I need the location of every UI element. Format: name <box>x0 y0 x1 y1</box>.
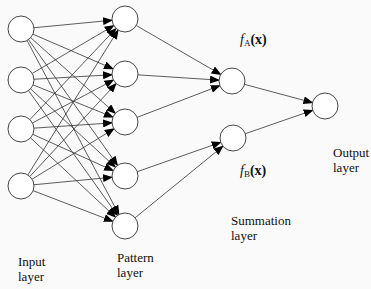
summation-b-function-label: fB(x) <box>240 163 266 179</box>
pnn-diagram: fA(x) fB(x) Input layer Pattern layer Su… <box>0 0 371 289</box>
connection-arrow <box>138 75 219 80</box>
connection-arrow <box>137 86 220 118</box>
input-node <box>8 67 34 93</box>
pattern-node <box>112 163 138 189</box>
connection-arrow <box>34 20 112 28</box>
network-graph <box>0 0 371 289</box>
fb-arg: (x) <box>250 163 266 178</box>
summation-layer-label: Summation layer <box>231 213 291 243</box>
output-node <box>312 93 338 119</box>
connection-arrow <box>137 142 220 171</box>
input-layer-label: Input layer <box>18 254 45 284</box>
connection-arrow <box>33 34 113 69</box>
connection-arrow <box>30 84 116 177</box>
pattern-node <box>112 6 138 32</box>
connection-arrow <box>30 28 116 119</box>
input-node <box>8 16 34 42</box>
pattern-layer-label: Pattern layer <box>117 250 154 280</box>
connection-arrow <box>33 134 113 170</box>
summation-a-function-label: fA(x) <box>240 32 267 48</box>
pattern-node <box>112 213 138 239</box>
connection-arrow <box>245 110 312 133</box>
fa-arg: (x) <box>250 32 266 47</box>
input-node <box>8 116 34 142</box>
output-layer-label: Output layer <box>333 145 369 175</box>
pattern-node <box>112 61 138 87</box>
input-node <box>8 173 34 199</box>
connection-arrow <box>34 177 112 185</box>
connection-arrow <box>136 26 221 75</box>
pattern-node <box>112 109 138 135</box>
connection-arrow <box>245 84 313 102</box>
summation-node <box>220 125 246 151</box>
summation-node <box>219 68 245 94</box>
connection-arrow <box>33 191 113 222</box>
